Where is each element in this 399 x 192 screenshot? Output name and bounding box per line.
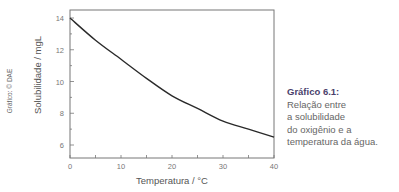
x-tick-label: 10 (117, 162, 125, 171)
solubility-curve (70, 18, 274, 137)
figure-caption: Gráfico 6.1: Relação entre a solubilidad… (287, 86, 399, 149)
x-tick-label: 20 (168, 162, 176, 171)
x-tick-label: 0 (68, 162, 72, 171)
x-tick-label: 30 (219, 162, 227, 171)
y-tick-label: 12 (56, 46, 64, 55)
caption-line: temperatura da água. (287, 136, 378, 147)
y-tick-label: 6 (60, 141, 64, 150)
caption-line: do oxigênio e a (287, 124, 351, 135)
y-tick-label: 8 (60, 109, 64, 118)
y-tick-label: 10 (56, 78, 64, 87)
caption-line: Relação entre (287, 99, 346, 110)
x-tick-label: 40 (270, 162, 278, 171)
plot-frame (70, 10, 274, 158)
caption-title: Gráfico 6.1: (287, 86, 399, 99)
y-tick-label: 14 (56, 14, 64, 23)
caption-line: a solubilidade (287, 111, 345, 122)
